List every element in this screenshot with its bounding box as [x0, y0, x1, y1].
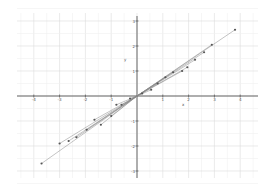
y-axis-label: y	[124, 57, 127, 62]
x-tick-label: -1	[109, 97, 113, 102]
y-tick-label: -2	[131, 144, 135, 149]
x-tick-label: 4	[239, 97, 242, 102]
data-point	[203, 51, 205, 53]
data-point	[110, 115, 112, 117]
data-point	[68, 140, 70, 142]
y-tick-label: -3	[131, 169, 135, 174]
data-point	[234, 29, 236, 31]
x-tick-label: 1	[162, 97, 165, 102]
data-point	[115, 104, 117, 106]
scatter-plot: -4-3-2-11234321-1-2-3 x y	[0, 0, 271, 189]
segment-line	[137, 67, 187, 96]
data-point	[93, 119, 95, 121]
x-tick-label: -3	[58, 97, 62, 102]
segment-line	[42, 96, 137, 164]
x-axis-label: x	[182, 102, 185, 107]
x-tick-label: -4	[32, 97, 36, 102]
data-point	[100, 124, 102, 126]
data-point	[211, 44, 213, 46]
x-tick-label: 3	[213, 97, 216, 102]
data-point	[59, 142, 61, 144]
x-tick-label: -2	[83, 97, 87, 102]
axes	[17, 16, 258, 178]
y-tick-label: -1	[131, 119, 135, 124]
segment-line	[137, 30, 235, 96]
plot-canvas: -4-3-2-11234321-1-2-3 x y	[0, 0, 271, 189]
data-point	[186, 66, 188, 68]
x-tick-label: 2	[187, 97, 190, 102]
data-point	[75, 136, 77, 138]
data-point	[164, 76, 166, 78]
data-segments	[42, 30, 236, 164]
data-point	[40, 162, 42, 164]
data-point	[150, 89, 152, 91]
data-point	[172, 71, 174, 73]
data-point	[141, 92, 143, 94]
data-point	[129, 97, 131, 99]
data-point	[120, 104, 122, 106]
data-point	[194, 59, 196, 61]
data-point	[157, 82, 159, 84]
data-point	[181, 70, 183, 72]
data-point	[86, 129, 88, 131]
